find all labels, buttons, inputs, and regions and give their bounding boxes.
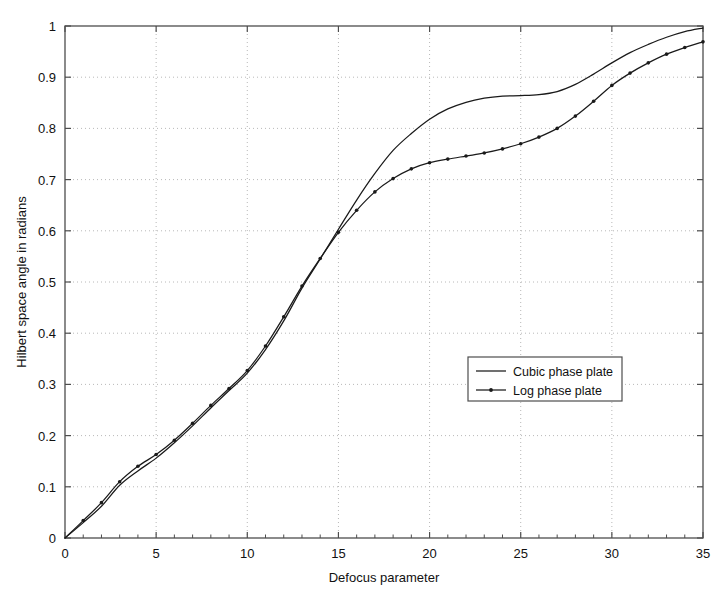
data-point-marker [501,147,505,151]
data-point-marker [300,284,304,288]
data-point-marker [355,209,359,213]
y-axis-tick-label: 0.8 [38,121,56,136]
y-axis-tick-label: 0.7 [38,173,56,188]
data-point-marker [610,84,614,88]
y-axis-tick-label: 0.1 [38,480,56,495]
y-axis-tick-label: 0.3 [38,377,56,392]
data-point-marker [227,387,231,391]
x-axis-tick-label: 25 [513,546,527,561]
line-chart: 00.10.20.30.40.50.60.70.80.9105101520253… [0,0,725,595]
data-point-marker [154,453,158,457]
data-point-marker [628,71,632,75]
data-point-marker [647,61,651,65]
x-axis-tick-label: 10 [240,546,254,561]
data-line-cubic-phase-plate [65,28,703,538]
legend-label-0: Cubic phase plate [513,365,613,379]
data-point-marker [173,438,177,442]
data-point-marker [318,257,322,261]
data-point-marker [555,127,559,131]
data-point-marker [665,52,669,56]
figure-container: 00.10.20.30.40.50.60.70.80.9105101520253… [0,0,725,595]
plot-frame [65,26,703,538]
data-point-marker [592,99,596,103]
data-point-marker [574,114,578,118]
data-point-marker [373,190,377,194]
legend-marker-sample [489,388,493,392]
data-point-marker [118,480,122,484]
y-axis-title: Hilbert space angle in radians [14,196,29,368]
x-axis-tick-label: 5 [153,546,160,561]
data-point-marker [410,167,414,171]
x-axis-tick-label: 15 [331,546,345,561]
legend-label-1: Log phase plate [513,384,602,398]
x-axis-tick-label: 30 [605,546,619,561]
data-point-marker [81,519,85,523]
data-point-marker [464,154,468,158]
data-point-marker [428,161,432,165]
data-point-marker [537,135,541,139]
data-point-marker [100,501,104,505]
y-axis-tick-label: 0 [49,531,56,546]
data-point-marker [136,465,140,469]
data-point-marker [191,422,195,426]
x-axis-title: Defocus parameter [329,570,440,585]
y-axis-tick-label: 0.9 [38,70,56,85]
data-point-marker [282,315,286,319]
x-axis-tick-label: 35 [696,546,710,561]
y-axis-tick-label: 0.4 [38,326,56,341]
y-axis-tick-label: 1 [49,19,56,34]
data-point-marker [209,404,213,408]
data-point-marker [264,344,268,348]
y-axis-tick-label: 0.6 [38,224,56,239]
x-axis-tick-label: 0 [61,546,68,561]
data-point-marker [446,157,450,161]
y-axis-tick-label: 0.2 [38,429,56,444]
data-point-marker [337,231,341,235]
data-point-marker [391,177,395,181]
data-point-marker [482,151,486,155]
y-axis-tick-label: 0.5 [38,275,56,290]
data-point-marker [701,40,705,44]
data-point-marker [683,46,687,50]
data-line-log-phase-plate [65,42,703,538]
x-axis-tick-label: 20 [422,546,436,561]
data-point-marker [245,369,249,373]
data-point-marker [519,142,523,146]
